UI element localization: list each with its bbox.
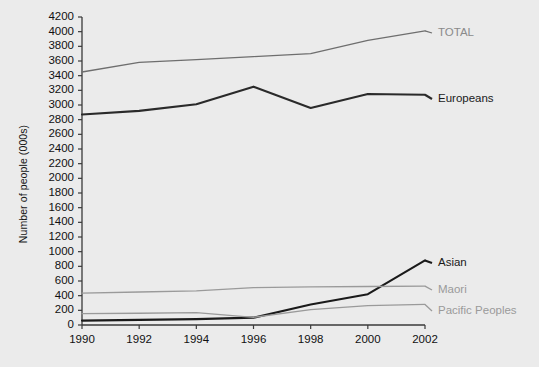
y-tick-label: 2200 xyxy=(30,158,74,170)
y-tick-label: 1400 xyxy=(30,217,74,229)
label-leader-lines xyxy=(425,31,432,311)
x-tick-label: 1992 xyxy=(114,334,164,346)
y-tick-label: 3000 xyxy=(30,99,74,111)
y-tick-label: 800 xyxy=(30,261,74,273)
y-tick-label: 3800 xyxy=(30,41,74,53)
y-tick-label: 3400 xyxy=(30,70,74,82)
series-line xyxy=(82,31,425,72)
x-tick-label: 1996 xyxy=(229,334,279,346)
y-tick-label: 1000 xyxy=(30,246,74,258)
x-tick-label: 1990 xyxy=(57,334,107,346)
leader-line xyxy=(425,95,432,99)
leader-line xyxy=(425,31,432,33)
x-tick-label: 2000 xyxy=(343,334,393,346)
series-label-pacific-peoples: Pacific Peoples xyxy=(438,305,517,317)
line-chart: Number of people (000s) 0200400600800100… xyxy=(0,0,539,367)
data-series xyxy=(82,31,425,321)
y-tick-label: 4000 xyxy=(30,26,74,38)
y-tick-label: 200 xyxy=(30,305,74,317)
y-tick-label: 2000 xyxy=(30,173,74,185)
series-line xyxy=(82,260,425,320)
y-tick-label: 0 xyxy=(30,319,74,331)
x-tick-label: 1998 xyxy=(286,334,336,346)
leader-line xyxy=(425,260,432,263)
y-tick-label: 1600 xyxy=(30,202,74,214)
y-tick-label: 1200 xyxy=(30,231,74,243)
y-tick-label: 2600 xyxy=(30,129,74,141)
leader-line xyxy=(425,304,432,311)
y-tick-label: 2400 xyxy=(30,143,74,155)
x-tick-label: 1994 xyxy=(171,334,221,346)
x-tick-label: 2002 xyxy=(400,334,450,346)
y-tick-label: 4200 xyxy=(30,11,74,23)
y-tick-label: 1800 xyxy=(30,187,74,199)
series-label-asian: Asian xyxy=(438,257,467,269)
series-label-maori: Maori xyxy=(438,284,467,296)
y-tick-label: 3600 xyxy=(30,55,74,67)
series-line xyxy=(82,304,425,317)
y-tick-label: 2800 xyxy=(30,114,74,126)
series-label-total: TOTAL xyxy=(438,27,474,39)
y-tick-label: 600 xyxy=(30,275,74,287)
y-tick-label: 3200 xyxy=(30,85,74,97)
series-label-europeans: Europeans xyxy=(438,93,494,105)
leader-line xyxy=(425,286,432,290)
series-line xyxy=(82,87,425,115)
y-tick-label: 400 xyxy=(30,290,74,302)
